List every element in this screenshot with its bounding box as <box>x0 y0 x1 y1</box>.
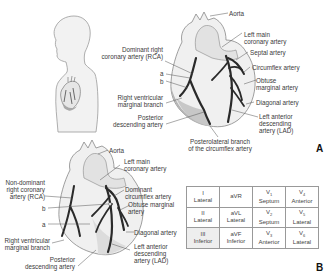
table-row: IILateral aVLLateral V2Septum V5Lateral <box>187 207 319 228</box>
label-rv-marginal-a-2: marginal branch <box>118 101 163 108</box>
label-aorta-a: Aorta <box>229 10 244 17</box>
label-dominant-rca-2: coronary artery (RCA) <box>101 53 163 60</box>
label-diagonal-a: Diagonal artery <box>256 99 299 106</box>
label-pda-a-2: descending artery <box>113 121 163 128</box>
label-dom-cx-1: Dominant <box>125 186 152 193</box>
label-pda-a-1: Posterior <box>138 114 163 121</box>
label-left-main-a-2: coronary artery <box>244 38 286 45</box>
label-rv-marginal-b-2: marginal branch <box>5 244 50 251</box>
table-cell-lead-v3: V3Anterior <box>253 228 286 249</box>
table-cell-lead-v1: V1Septum <box>253 187 286 208</box>
table-cell-lead-avl: aVLLateral <box>220 207 253 228</box>
panel-label-b: B <box>316 262 323 273</box>
table-cell-lead-v2: V2Septum <box>253 207 286 228</box>
label-circumflex-artery: Circumflex artery <box>252 64 300 71</box>
label-pda-b-1: Posterior <box>50 256 75 263</box>
label-left-main-b-2: coronary artery <box>124 165 166 172</box>
label-rv-marginal-a-1: Right ventricular <box>118 94 164 101</box>
label-posterolateral-2: of the circumflex artery <box>180 145 260 152</box>
label-aorta-b: Aorta <box>109 147 124 154</box>
label-dominant-rca-1: Dominant right <box>122 46 163 53</box>
panel-label-a: A <box>316 143 323 154</box>
label-obtuse-a-2: marginal artery <box>256 84 298 91</box>
label-posterolateral-1: Posterolateral branch <box>180 138 260 145</box>
table-cell-lead-iii: IIIInferior <box>187 228 220 249</box>
label-b-marker-b: b <box>42 205 46 212</box>
label-diagonal-b: Diagonal artery <box>134 229 177 236</box>
label-obtuse-b-1: Obtuse marginal <box>128 201 174 208</box>
table-row: IIIInferior aVFInferior V3Anterior V6Lat… <box>187 228 319 249</box>
label-rv-marginal-b-1: Right ventricular <box>5 237 51 244</box>
torso-silhouette-icon <box>54 16 98 132</box>
label-a-marker-b: a <box>42 221 46 228</box>
label-lad-a-3: artery (LAD) <box>259 127 293 134</box>
label-pda-b-2: descending artery <box>25 263 75 270</box>
label-lad-a-1: Left anterior <box>259 113 293 120</box>
label-left-main-b-1: Left main <box>124 158 150 165</box>
label-nondom-rca-3: artery (RCA) <box>10 193 45 200</box>
table-cell-lead-i: ILateral <box>187 187 220 208</box>
label-lad-b-2: descending <box>134 250 166 257</box>
label-obtuse-b-2: artery <box>128 208 144 215</box>
label-septal-artery: Septal artery <box>250 49 286 56</box>
table-cell-lead-avf: aVFInferior <box>220 228 253 249</box>
label-nondom-rca-1: Non-dominant <box>5 179 45 186</box>
label-obtuse-a-1: Obtuse <box>256 77 276 84</box>
label-a-marker: a <box>160 70 164 77</box>
table-cell-lead-v6: V6Lateral <box>286 228 319 249</box>
table-cell-lead-v5: V5Lateral <box>286 207 319 228</box>
table-cell-lead-v4: V4Anterior <box>286 187 319 208</box>
ecg-lead-region-table: ILateral aVR V1Septum V4Anterior IILater… <box>186 186 319 249</box>
table-cell-lead-ii: IILateral <box>187 207 220 228</box>
label-b-marker: b <box>160 78 164 85</box>
label-lad-b-3: artery (LAD) <box>134 257 168 264</box>
label-lad-b-1: Left anterior <box>134 243 168 250</box>
table-row: ILateral aVR V1Septum V4Anterior <box>187 187 319 208</box>
label-nondom-rca-2: right coronary <box>7 186 46 193</box>
label-left-main-a-1: Left main <box>244 31 270 38</box>
table-cell-lead-avr: aVR <box>220 187 253 208</box>
label-dom-cx-2: circumflex artery <box>125 193 171 200</box>
label-lad-a-2: descending <box>259 120 291 127</box>
